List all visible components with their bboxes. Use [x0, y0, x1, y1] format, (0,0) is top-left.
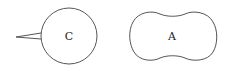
- shape-c: C: [16, 8, 97, 64]
- label-c: C: [65, 30, 73, 43]
- label-a: A: [167, 30, 177, 43]
- diagram-canvas: C A: [0, 0, 230, 71]
- spike-c: [16, 33, 41, 39]
- shape-a: A: [130, 12, 217, 60]
